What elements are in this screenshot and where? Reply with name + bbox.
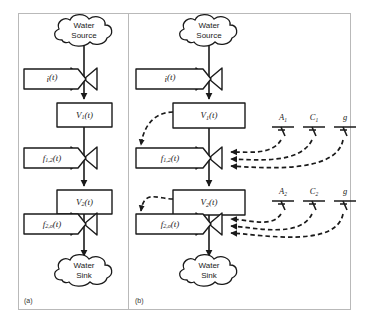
panel-b-stock-v1-box: V1(t)	[173, 103, 245, 128]
panel-b-param-link-g2-to-valve	[231, 214, 343, 237]
panel-b-sink-line1: Water	[198, 261, 219, 270]
panel-a-stock-v2-label: V2(t)	[76, 197, 93, 208]
panel-b-parameter-group-2: A2 C2 g	[272, 186, 356, 210]
panel-a-mid-flow-box: f1,2(t)	[24, 148, 86, 168]
panel-b-parameter-group-1: A1 C1 g	[272, 112, 356, 136]
panel-b-outflow-box: f2,o(t)	[136, 214, 211, 234]
panel-b-feedback-v1-to-f12	[141, 112, 173, 145]
panel-b-mid-flow-box: f1,2(t)	[136, 148, 211, 168]
panel-b-param-link-c2-to-valve	[231, 214, 312, 230]
panel-b-source-line2: Source	[196, 31, 222, 40]
param-c1-stem	[309, 127, 316, 136]
panel-a-caption: (a)	[24, 297, 33, 305]
panel-b-param-link-g1-to-valve	[231, 140, 343, 168]
param-c2-label: C2	[310, 186, 319, 197]
param-g1-label: g	[343, 112, 347, 122]
panel-a-sink-cloud: Water Sink	[55, 255, 112, 287]
panel-b-inflow-rate-box: i(t)	[136, 69, 211, 89]
panel-b-param-link-c1-to-valve	[231, 140, 312, 160]
param-c2-stem	[309, 201, 316, 210]
panel-a-source-cloud: Water Source	[55, 15, 112, 47]
panel-a-stock-v1-box: V1(t)	[57, 103, 112, 127]
panel-a-source-line2: Source	[71, 31, 97, 40]
param-c1-label: C1	[310, 112, 319, 123]
param-g1-stem	[340, 127, 347, 136]
panel-a-inflow-rate-box: i(t)	[24, 69, 86, 89]
panel-b-param-link-a1-to-valve	[231, 140, 281, 152]
panel-b-source-line1: Water	[198, 21, 219, 30]
panel-a-outflow-box: f2,o(t)	[24, 214, 86, 234]
panel-b-sink-line2: Sink	[201, 271, 218, 280]
param-g2-stem	[340, 201, 347, 210]
panel-a-source-line1: Water	[73, 21, 94, 30]
panel-b-caption: (b)	[135, 297, 144, 305]
diagram-canvas: Water Source i(t) V1(t)	[0, 0, 369, 327]
panel-b-feedback-v2-to-f2o	[141, 197, 173, 211]
param-a1-stem	[278, 127, 285, 136]
panel-a-stock-v2-box: V2(t)	[57, 190, 112, 214]
param-a1-label: A1	[278, 112, 287, 123]
panel-b-stock-v1-label: V1(t)	[201, 110, 218, 121]
param-a2-label: A2	[278, 186, 287, 197]
param-a2-stem	[278, 201, 285, 210]
panel-a-sink-line1: Water	[73, 261, 94, 270]
panel-b-sink-cloud: Water Sink	[180, 255, 237, 287]
panel-b: Water Source i(t) V1(t)	[135, 15, 356, 305]
panel-a-stock-v1-label: V1(t)	[76, 110, 93, 121]
figure-container: Water Source i(t) V1(t)	[0, 0, 369, 327]
panel-a-sink-line2: Sink	[76, 271, 93, 280]
panel-b-source-cloud: Water Source	[180, 15, 237, 47]
panel-a: Water Source i(t) V1(t)	[24, 15, 112, 305]
param-g2-label: g	[343, 186, 347, 196]
panel-b-stock-v2-box: V2(t)	[173, 190, 245, 215]
panel-b-stock-v2-label: V2(t)	[201, 197, 218, 208]
